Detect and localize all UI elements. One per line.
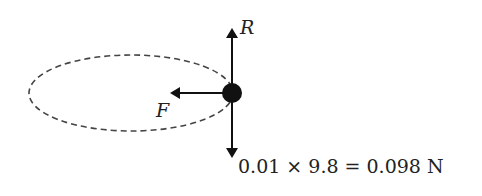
centripetal-label: F [155,99,170,121]
reaction-arrowhead-icon [226,28,238,38]
weight-label: 0.01 × 9.8 = 0.098 N [238,155,444,177]
free-body-diagram: R F 0.01 × 9.8 = 0.098 N [0,0,482,196]
reaction-label: R [239,16,254,38]
mass-dot [222,83,242,103]
weight-arrowhead-icon [226,148,238,158]
diagram-svg: R F 0.01 × 9.8 = 0.098 N [0,0,482,196]
centripetal-arrowhead-icon [170,87,180,99]
